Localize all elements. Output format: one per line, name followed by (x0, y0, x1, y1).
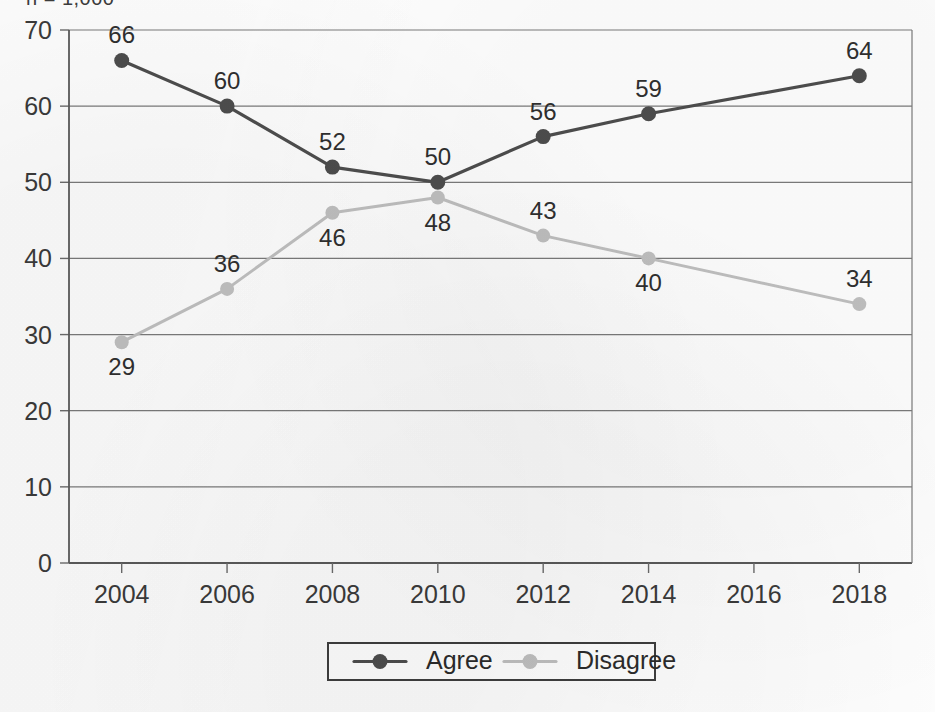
y-axis-tick-label: 20 (24, 397, 52, 425)
data-label-agree: 60 (214, 67, 241, 94)
legend-marker-disagree (523, 654, 538, 669)
y-axis-tick-label: 60 (24, 92, 52, 120)
data-label-disagree: 46 (319, 224, 346, 251)
data-point-disagree[interactable] (431, 191, 445, 205)
data-point-agree[interactable] (325, 160, 340, 175)
y-axis-tick-label: 50 (24, 168, 52, 196)
data-point-disagree[interactable] (115, 335, 129, 349)
data-point-agree[interactable] (852, 68, 867, 83)
data-point-agree[interactable] (641, 106, 656, 121)
data-label-agree: 66 (108, 21, 135, 48)
chart-page: n = 1,000 010203040506070200420062008201… (0, 0, 935, 712)
data-label-disagree: 48 (424, 209, 451, 236)
data-label-disagree: 29 (108, 353, 135, 380)
x-axis-tick-label: 2018 (832, 580, 888, 608)
data-label-disagree: 43 (530, 197, 557, 224)
data-point-agree[interactable] (536, 129, 551, 144)
y-axis-tick-label: 40 (24, 244, 52, 272)
x-axis-tick-label: 2016 (726, 580, 782, 608)
legend-label-agree[interactable]: Agree (426, 646, 493, 674)
data-point-agree[interactable] (220, 99, 235, 114)
x-axis-tick-label: 2004 (94, 580, 150, 608)
data-label-disagree: 34 (846, 265, 873, 292)
data-point-disagree[interactable] (536, 229, 550, 243)
y-axis-tick-label: 0 (38, 549, 52, 577)
legend-marker-agree (373, 654, 388, 669)
y-axis-tick-label: 10 (24, 473, 52, 501)
data-label-disagree: 36 (214, 250, 241, 277)
data-label-agree: 56 (530, 98, 557, 125)
data-label-disagree: 40 (635, 269, 662, 296)
data-label-agree: 64 (846, 37, 873, 64)
legend-label-disagree[interactable]: Disagree (576, 646, 676, 674)
x-axis-tick-label: 2008 (305, 580, 361, 608)
x-axis-tick-label: 2014 (621, 580, 677, 608)
x-axis-tick-label: 2012 (515, 580, 571, 608)
data-point-agree[interactable] (430, 175, 445, 190)
data-point-disagree[interactable] (220, 282, 234, 296)
y-axis-tick-label: 30 (24, 321, 52, 349)
x-axis-tick-label: 2010 (410, 580, 466, 608)
data-label-agree: 50 (424, 143, 451, 170)
data-point-disagree[interactable] (852, 297, 866, 311)
y-axis-tick-label: 70 (24, 16, 52, 44)
data-point-disagree[interactable] (325, 206, 339, 220)
line-chart: 0102030405060702004200620082010201220142… (0, 0, 935, 712)
data-point-agree[interactable] (114, 53, 129, 68)
data-point-disagree[interactable] (642, 251, 656, 265)
x-axis-tick-label: 2006 (199, 580, 255, 608)
data-label-agree: 52 (319, 128, 346, 155)
data-label-agree: 59 (635, 75, 662, 102)
